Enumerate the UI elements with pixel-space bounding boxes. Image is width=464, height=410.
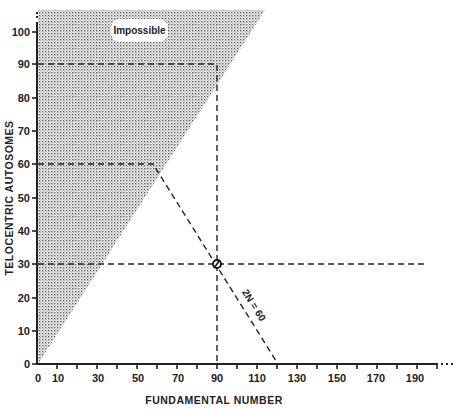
- y-axis-title: TELOCENTRIC AUTOSOMES: [3, 120, 15, 275]
- svg-text:130: 130: [288, 372, 306, 384]
- svg-text:0: 0: [24, 358, 30, 370]
- diagonal-label: 2N = 60: [240, 287, 268, 323]
- svg-text:150: 150: [328, 372, 346, 384]
- svg-text:90: 90: [18, 58, 30, 70]
- svg-text:100: 100: [12, 26, 30, 38]
- svg-text:190: 190: [406, 372, 424, 384]
- svg-text:90: 90: [211, 372, 223, 384]
- impossible-region: [38, 10, 265, 364]
- x-tick-labels: 0 10 30 50 70 90 110 130 150 170 190: [35, 372, 424, 384]
- impossible-label: Impossible: [113, 25, 166, 36]
- svg-text:40: 40: [18, 225, 30, 237]
- svg-text:70: 70: [18, 125, 30, 137]
- x-axis-title: FUNDAMENTAL NUMBER: [145, 394, 283, 406]
- svg-text:50: 50: [18, 192, 30, 204]
- svg-text:30: 30: [18, 258, 30, 270]
- circle-slash-marker: [213, 260, 221, 268]
- svg-text:10: 10: [18, 325, 30, 337]
- svg-text:0: 0: [35, 372, 41, 384]
- svg-text:80: 80: [18, 92, 30, 104]
- svg-text:110: 110: [248, 372, 266, 384]
- svg-text:170: 170: [367, 372, 385, 384]
- svg-text:70: 70: [172, 372, 184, 384]
- svg-text:50: 50: [132, 372, 144, 384]
- svg-text:30: 30: [92, 372, 104, 384]
- svg-text:10: 10: [52, 372, 64, 384]
- svg-text:60: 60: [18, 158, 30, 170]
- svg-text:20: 20: [18, 292, 30, 304]
- chart: Impossible 2N = 60: [0, 0, 464, 410]
